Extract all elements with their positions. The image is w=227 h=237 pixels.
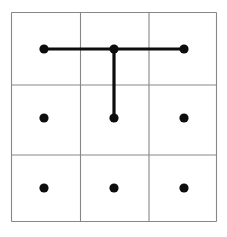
dot-r1c1	[39, 44, 48, 53]
dot-r2c2	[109, 113, 118, 122]
dot-r2c1	[39, 113, 48, 122]
nine-dot-grid-figure	[0, 0, 227, 237]
dot-r1c2	[109, 44, 118, 53]
dot-r2c3	[179, 113, 188, 122]
dot-r3c2	[109, 183, 118, 192]
dot-r3c1	[39, 183, 48, 192]
dot-r3c3	[179, 183, 188, 192]
figure-canvas	[0, 0, 227, 237]
dot-r1c3	[179, 44, 188, 53]
